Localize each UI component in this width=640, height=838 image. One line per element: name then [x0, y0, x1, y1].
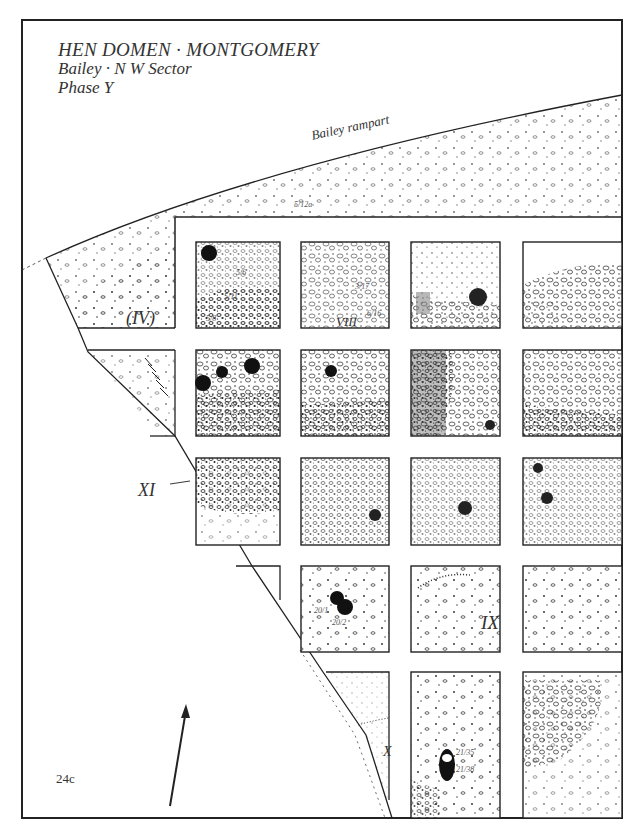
area-label-xi: XI [138, 480, 155, 501]
north-arrow-icon [170, 704, 190, 806]
xi-leader-line [170, 481, 190, 484]
sector-subtitle: Bailey · N W Sector [58, 59, 319, 78]
title-block: HEN DOMEN · MONTGOMERY Bailey · N W Sect… [58, 40, 319, 97]
figure-number: 24c [56, 771, 75, 787]
area-label-iv: (IV) [126, 308, 155, 329]
area-label-ix: IX [481, 612, 499, 634]
grid-box-r2c4 [523, 350, 622, 436]
grid-box-r4c3 [411, 566, 500, 652]
context-label: 3/17 [355, 282, 369, 291]
area-label-viii: VIII [336, 314, 357, 330]
grid-box-r5c3 [411, 672, 500, 818]
grid-box-r1c4 [523, 242, 622, 328]
grid-box-r3c1 [196, 458, 280, 545]
grid-box-r3c2 [301, 458, 389, 545]
context-label: 20/1 [314, 606, 328, 615]
area-label-x: X [383, 744, 392, 760]
context-label: 21/35 [456, 748, 474, 757]
grid-box-r4c4 [523, 566, 622, 652]
context-label: 5/8 [206, 314, 216, 323]
context-label: 5/11 [224, 292, 238, 301]
context-label: 21/38 [456, 765, 474, 774]
archaeological-plan: HEN DOMEN · MONTGOMERY Bailey · N W Sect… [0, 0, 640, 838]
context-label: 5/6 [236, 268, 246, 277]
context-label: 6/16 [367, 309, 381, 318]
grid-box-r2c1 [195, 350, 280, 436]
context-label: 20/2 [332, 618, 346, 627]
phase-label: Phase Y [58, 78, 319, 97]
rampart-extension [22, 258, 46, 270]
context-label: 5/12a [294, 200, 312, 209]
grid-box-r3c4 [523, 458, 622, 545]
grid-box-r2c3 [411, 350, 500, 436]
site-title: HEN DOMEN · MONTGOMERY [58, 40, 319, 59]
grid-box-r1c3 [411, 242, 500, 328]
grid-box-r2c2 [301, 350, 389, 436]
grid-box-r5c4 [523, 672, 622, 818]
grid-box-r3c3 [411, 458, 500, 545]
